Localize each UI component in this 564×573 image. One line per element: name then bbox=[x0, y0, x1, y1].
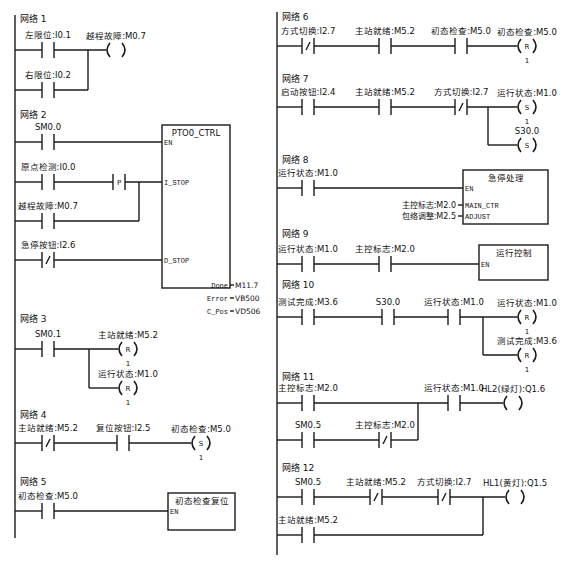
block-output-pin: Done bbox=[211, 282, 228, 290]
coil-count: 1 bbox=[525, 57, 529, 65]
coil: SS30.0 bbox=[515, 126, 539, 152]
no-contact: 主站就绪:M5.2 bbox=[278, 515, 338, 543]
coil: HL2(绿灯):Q1.6 bbox=[481, 384, 545, 410]
network-title: 网络 10 bbox=[282, 279, 315, 290]
nc-contact: 方式切换:I2.7 bbox=[417, 477, 472, 505]
network-title: 网络 3 bbox=[20, 313, 47, 324]
network: 网络 11主控标志:M2.0运行状态:M1.0HL2(绿灯):Q1.6SM0.5… bbox=[277, 371, 545, 448]
nc-contact: 急停按钮:I2.6 bbox=[21, 240, 76, 268]
contact-label: 方式切换:I2.7 bbox=[434, 87, 489, 97]
coil-label: 测试完成:M3.6 bbox=[497, 336, 557, 346]
rung: 右限位:I0.2 bbox=[15, 50, 88, 98]
network-title: 网络 1 bbox=[20, 13, 47, 24]
no-contact: 右限位:I0.2 bbox=[25, 70, 71, 98]
network: 网络 5初态检查复位EN初态检查:M5.0 bbox=[15, 476, 235, 530]
coil: HL1(黄灯):Q1.5 bbox=[483, 478, 547, 504]
block-input-pin: ADJUST bbox=[465, 213, 490, 221]
nc-contact: 方式切换:I2.7 bbox=[281, 26, 336, 54]
network: 网络 7启动按钮:I2.4主站就绪:M5.2方式切换:I2.7S运行状态:M1.… bbox=[277, 73, 557, 152]
block-input-pin: MAIN_CTR bbox=[465, 202, 499, 210]
block-input-param: 主控标志:M2.0 bbox=[402, 200, 456, 210]
rung: 主站就绪:M5.2 bbox=[277, 497, 483, 543]
coil-type: R bbox=[126, 385, 131, 393]
contact-label: 主控标志:M2.0 bbox=[355, 420, 415, 430]
no-contact: 原点检测:I0.0 bbox=[21, 162, 76, 190]
no-contact: S30.0 bbox=[376, 297, 400, 325]
coil-count: 1 bbox=[525, 328, 529, 336]
contact-label: 主站就绪:M5.2 bbox=[355, 87, 415, 97]
network-title: 网络 4 bbox=[20, 409, 47, 420]
network: 网络 10测试完成:M3.6S30.0运行状态:M1.0R运行状态:M1.01R… bbox=[277, 279, 557, 374]
no-contact: 主站就绪:M5.2 bbox=[355, 26, 415, 54]
rung: 原点检测:I0.0P bbox=[15, 162, 162, 190]
contact-label: 复位按钮:I2.5 bbox=[96, 423, 151, 433]
block-output-pin: C_Pos bbox=[207, 308, 228, 316]
contact-label: 急停按钮:I2.6 bbox=[21, 240, 76, 250]
rung: 运行状态:M1.0主控标志:M2.0 bbox=[277, 244, 479, 272]
coil-count: 1 bbox=[126, 399, 130, 407]
block-input-pin: EN bbox=[465, 185, 473, 193]
network: 网络 4主站就绪:M5.2复位按钮:I2.5S初态检查:M5.01 bbox=[15, 409, 231, 462]
edge-symbol: P bbox=[117, 179, 121, 187]
network-title: 网络 11 bbox=[282, 371, 314, 382]
no-contact: SM0.1 bbox=[35, 329, 61, 357]
nc-contact: 主站就绪:M5.2 bbox=[18, 423, 78, 451]
coil-type: R bbox=[525, 352, 530, 360]
network: 网络 1左限位:I0.1越程故障:M0.7右限位:I0.2 bbox=[15, 13, 146, 98]
coil-type: R bbox=[525, 43, 530, 51]
contact-label: 初态检查:M5.0 bbox=[431, 26, 491, 36]
no-contact: 越程故障:M0.7 bbox=[18, 201, 78, 229]
coil-label: 初态检查:M5.0 bbox=[497, 27, 557, 37]
rung: SM0.5主站就绪:M5.2方式切换:I2.7HL1(黄灯):Q1.5 bbox=[277, 477, 547, 505]
block-input-pin: EN bbox=[164, 139, 172, 147]
network: 网络 6方式切换:I2.7主站就绪:M5.2初态检查:M5.0R初态检查:M5.… bbox=[277, 11, 557, 65]
rung: 急停按钮:I2.6 bbox=[15, 240, 162, 268]
no-contact: SM0.5 bbox=[295, 420, 321, 448]
contact-label: 运行状态:M1.0 bbox=[424, 383, 484, 393]
coil-count: 1 bbox=[525, 366, 529, 374]
rung: 方式切换:I2.7主站就绪:M5.2初态检查:M5.0R初态检查:M5.01 bbox=[277, 26, 557, 65]
network-title: 网络 6 bbox=[282, 11, 309, 22]
contact-label: 运行状态:M1.0 bbox=[424, 297, 484, 307]
contact-label: 右限位:I0.2 bbox=[25, 70, 71, 80]
no-contact: 运行状态:M1.0 bbox=[278, 244, 338, 272]
no-contact: 复位按钮:I2.5 bbox=[96, 423, 151, 451]
network: 网络 12SM0.5主站就绪:M5.2方式切换:I2.7HL1(黄灯):Q1.5… bbox=[277, 462, 547, 543]
nc-contact: 方式切换:I2.7 bbox=[434, 87, 489, 115]
right-column: 网络 6方式切换:I2.7主站就绪:M5.2初态检查:M5.0R初态检查:M5.… bbox=[277, 11, 557, 555]
function-block-title: 运行控制 bbox=[496, 248, 532, 258]
block-output-value: VB500 bbox=[235, 294, 260, 303]
rung: 左限位:I0.1越程故障:M0.7 bbox=[15, 30, 146, 58]
contact-label: 运行状态:M1.0 bbox=[278, 168, 338, 178]
coil-label: 运行状态:M1.0 bbox=[497, 298, 557, 308]
contact-label: 方式切换:I2.7 bbox=[417, 477, 472, 487]
rung: R测试完成:M3.61 bbox=[483, 317, 557, 374]
rung: SM0.5主控标志:M2.0 bbox=[277, 403, 418, 448]
block-input-pin: EN bbox=[170, 508, 178, 516]
ladder-diagram: 网络 1左限位:I0.1越程故障:M0.7右限位:I0.2网络 2PTO0_CT… bbox=[0, 0, 564, 573]
network-title: 网络 9 bbox=[282, 228, 309, 239]
no-contact: 左限位:I0.1 bbox=[25, 30, 71, 58]
function-block-title: 急停处理 bbox=[488, 173, 524, 183]
network-title: 网络 7 bbox=[282, 73, 309, 84]
coil-count: 1 bbox=[199, 454, 203, 462]
no-contact: 主控标志:M2.0 bbox=[355, 244, 415, 272]
rung: 启动按钮:I2.4主站就绪:M5.2方式切换:I2.7S运行状态:M1.01 bbox=[277, 87, 557, 126]
network: 网络 3SM0.1R主站就绪:M5.21R运行状态:M1.01 bbox=[15, 313, 158, 407]
coil-count: 1 bbox=[525, 118, 529, 126]
rung: 主控标志:M2.0运行状态:M1.0HL2(绿灯):Q1.6 bbox=[277, 383, 545, 411]
contact-label: 主站就绪:M5.2 bbox=[278, 515, 338, 525]
block-input-pin: EN bbox=[481, 261, 489, 269]
rung: 越程故障:M0.7 bbox=[15, 182, 139, 229]
network-title: 网络 8 bbox=[282, 154, 309, 165]
contact-label: 方式切换:I2.7 bbox=[281, 26, 336, 36]
no-contact: 运行状态:M1.0 bbox=[278, 168, 338, 196]
positive-edge-contact: P bbox=[113, 174, 125, 190]
contact-label: SM0.5 bbox=[295, 420, 321, 430]
no-contact: SM0.0 bbox=[35, 122, 61, 150]
contact-label: 主控标志:M2.0 bbox=[355, 244, 415, 254]
network: 网络 2PTO0_CTRLENI_STOPD_STOPDoneM11.7Erro… bbox=[15, 109, 260, 316]
block-output-pin: Error bbox=[207, 295, 228, 303]
coil-label: 初态检查:M5.0 bbox=[171, 424, 231, 434]
rung: 初态检查:M5.0 bbox=[15, 491, 168, 519]
